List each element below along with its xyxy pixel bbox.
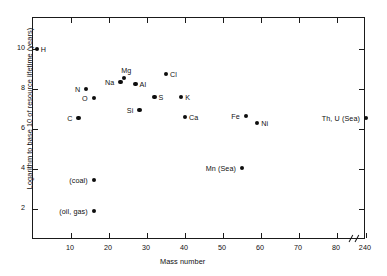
data-point-label: N — [75, 86, 80, 93]
x-tick-top — [337, 18, 338, 23]
data-point-label: S — [159, 94, 164, 101]
data-point — [364, 116, 368, 120]
data-point — [92, 209, 96, 213]
plot-area: HCNO(coal)(oil, gas)NaMgAlSiSClKCaMn (Se… — [32, 17, 365, 239]
x-tick — [261, 233, 262, 238]
x-tick-label-30: 30 — [129, 243, 163, 252]
x-tick-top — [261, 18, 262, 23]
data-point — [76, 116, 80, 120]
data-point-label: K — [185, 94, 190, 101]
y-tick-label-4: 4 — [14, 163, 25, 172]
x-tick — [337, 233, 338, 238]
data-point — [118, 80, 122, 84]
data-point-label: Al — [140, 81, 147, 88]
data-point-label: Mg — [121, 67, 131, 74]
y-tick — [33, 129, 38, 130]
y-tick-label-6: 6 — [14, 123, 25, 132]
y-tick-label-2: 2 — [14, 203, 25, 212]
x-tick-label-40: 40 — [167, 243, 201, 252]
y-tick-right — [359, 49, 364, 50]
x-tick-label-240: 240 — [348, 243, 382, 252]
y-tick — [33, 209, 38, 210]
x-tick — [71, 233, 72, 238]
y-tick-right — [359, 89, 364, 90]
figure: Logarithm to base 10 of resource lifetim… — [0, 0, 387, 276]
x-tick — [147, 233, 148, 238]
x-tick-top — [147, 18, 148, 23]
data-point — [84, 87, 88, 91]
data-point-label: Si — [127, 107, 134, 114]
data-point-label: (coal) — [69, 177, 88, 184]
x-tick — [109, 233, 110, 238]
y-tick — [33, 89, 38, 90]
data-point — [35, 47, 39, 51]
data-point — [179, 95, 183, 99]
axis-break-icon — [348, 235, 353, 243]
x-tick-label-60: 60 — [243, 243, 277, 252]
x-tick — [223, 233, 224, 238]
x-tick-top — [109, 18, 110, 23]
data-point — [244, 114, 248, 118]
data-point — [133, 82, 137, 86]
data-point-label: Ni — [261, 120, 268, 127]
x-tick-label-50: 50 — [205, 243, 239, 252]
data-point-label: C — [67, 115, 72, 122]
x-tick-top — [185, 18, 186, 23]
x-tick-label-10: 10 — [53, 243, 87, 252]
data-point — [137, 108, 141, 112]
data-point-label: Cl — [170, 71, 177, 78]
y-tick-right — [359, 169, 364, 170]
data-point — [240, 166, 244, 170]
y-tick — [33, 169, 38, 170]
data-point-label: Fe — [231, 113, 240, 120]
data-point-label: Mn (Sea) — [206, 165, 236, 172]
y-tick-label-8: 8 — [14, 83, 25, 92]
data-point — [92, 96, 96, 100]
y-tick-label-10: 10 — [14, 43, 25, 52]
data-point-label: O — [82, 95, 88, 102]
data-point-label: Th, U (Sea) — [322, 115, 360, 122]
x-tick-label-20: 20 — [91, 243, 125, 252]
x-tick-top — [223, 18, 224, 23]
data-point — [92, 178, 96, 182]
x-tick — [185, 233, 186, 238]
data-point — [152, 95, 156, 99]
data-point — [183, 115, 187, 119]
x-tick-top — [71, 18, 72, 23]
data-point — [164, 72, 168, 76]
x-tick — [366, 233, 367, 238]
data-point — [122, 76, 126, 80]
data-point-label: (oil, gas) — [59, 208, 88, 215]
x-tick-label-70: 70 — [281, 243, 315, 252]
data-point-label: Ca — [189, 114, 198, 121]
y-tick-right — [359, 129, 364, 130]
data-point — [255, 121, 259, 125]
y-tick-right — [359, 209, 364, 210]
axis-break-icon-2 — [354, 235, 359, 243]
x-tick-top — [299, 18, 300, 23]
data-point-label: H — [41, 46, 46, 53]
x-tick — [299, 233, 300, 238]
data-point-label: Na — [105, 79, 114, 86]
x-axis-title: Mass number — [160, 257, 205, 266]
